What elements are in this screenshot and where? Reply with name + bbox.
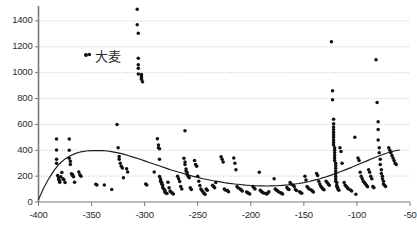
- data-point: [337, 189, 341, 193]
- data-point: [372, 186, 376, 190]
- data-point: [55, 137, 59, 141]
- legend-label: 大麦: [95, 46, 121, 65]
- data-point: [295, 189, 299, 193]
- data-point: [331, 98, 335, 102]
- data-point: [69, 163, 73, 167]
- data-point: [232, 156, 236, 160]
- data-point: [353, 136, 357, 140]
- data-point: [68, 149, 72, 153]
- data-point: [267, 190, 271, 194]
- data-point: [60, 171, 64, 175]
- x-axis-tick-label: -50: [390, 209, 417, 220]
- data-point: [233, 161, 237, 165]
- data-point: [258, 171, 262, 175]
- data-point: [316, 174, 320, 178]
- legend-marker-icon: [84, 53, 88, 57]
- x-axis-tick-label: -150: [284, 209, 324, 220]
- data-point: [374, 58, 378, 62]
- data-point: [172, 192, 176, 196]
- data-point: [135, 23, 139, 27]
- data-point: [55, 148, 59, 152]
- x-axis-tick-label: -350: [72, 209, 112, 220]
- data-point: [376, 120, 380, 124]
- data-point: [203, 192, 207, 196]
- data-point: [190, 188, 194, 192]
- data-point: [377, 151, 381, 155]
- data-point: [214, 181, 218, 185]
- data-point: [377, 146, 381, 150]
- data-point: [221, 160, 225, 164]
- data-point: [121, 166, 125, 170]
- data-point: [122, 176, 126, 180]
- x-axis-tick-label: -250: [178, 209, 218, 220]
- data-point: [330, 40, 334, 44]
- data-point: [368, 171, 372, 175]
- data-point: [110, 188, 114, 192]
- data-point: [370, 177, 374, 181]
- data-point: [182, 157, 186, 161]
- legend: 大麦: [84, 46, 121, 65]
- data-point: [366, 185, 370, 189]
- data-point: [358, 171, 362, 175]
- data-point: [340, 161, 344, 165]
- y-axis-tick-label: 1000: [12, 66, 32, 77]
- data-point: [354, 192, 358, 196]
- data-point: [303, 174, 307, 178]
- data-point: [152, 170, 156, 174]
- data-point: [178, 180, 182, 184]
- data-point: [158, 158, 162, 162]
- x-axis-tick-label: -100: [337, 209, 377, 220]
- data-point: [79, 174, 83, 178]
- data-point: [227, 190, 231, 194]
- data-point: [183, 163, 187, 167]
- data-point: [103, 183, 107, 187]
- scatter-plot-svg: [0, 0, 417, 227]
- data-point: [332, 122, 336, 126]
- data-point: [253, 187, 257, 191]
- data-point: [116, 146, 120, 150]
- data-point: [55, 158, 59, 162]
- data-point: [73, 181, 77, 185]
- data-point: [322, 188, 326, 192]
- data-point: [234, 168, 238, 172]
- data-point: [117, 158, 121, 162]
- data-point: [379, 158, 383, 162]
- data-point: [376, 128, 380, 132]
- data-point: [68, 137, 72, 141]
- data-point: [332, 117, 336, 121]
- data-point: [158, 147, 162, 151]
- y-axis-tick-label: 600: [17, 118, 32, 129]
- data-point: [328, 183, 332, 187]
- data-point: [339, 150, 343, 154]
- data-point: [198, 184, 202, 188]
- data-point: [197, 180, 201, 184]
- data-point: [145, 183, 149, 187]
- data-point: [69, 159, 73, 163]
- data-point: [376, 138, 380, 142]
- data-point: [118, 161, 122, 165]
- data-point: [183, 129, 187, 133]
- data-point: [375, 101, 379, 105]
- data-point: [272, 177, 276, 181]
- data-point: [394, 163, 398, 167]
- data-point: [55, 161, 59, 165]
- data-point: [195, 165, 199, 169]
- data-point: [187, 176, 191, 180]
- data-point: [137, 63, 141, 67]
- data-point: [115, 123, 119, 127]
- x-axis-tick-label: -200: [231, 209, 271, 220]
- data-point: [213, 186, 217, 190]
- x-axis-tick-label: -400: [19, 209, 59, 220]
- data-point: [331, 89, 335, 93]
- data-point: [167, 186, 171, 190]
- data-point: [384, 185, 388, 189]
- data-point: [380, 168, 384, 172]
- data-point: [293, 185, 297, 189]
- data-point: [63, 181, 67, 185]
- data-point: [137, 66, 141, 70]
- data-point: [350, 189, 354, 193]
- data-point: [137, 56, 141, 60]
- data-point: [156, 137, 160, 141]
- data-point: [241, 189, 245, 193]
- scatter-series: [55, 8, 398, 196]
